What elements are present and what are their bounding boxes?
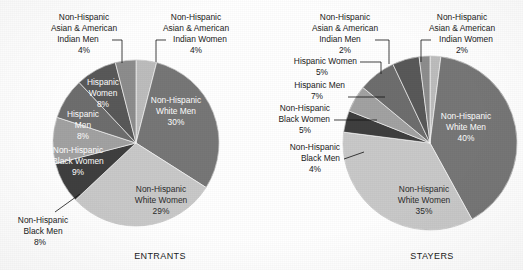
stayers-label-black-men-line1: Non-Hispanic bbox=[290, 142, 340, 152]
stayers-slice-label-white-women-line2: White Women bbox=[398, 195, 451, 205]
stayers-slice-label-white-men-line2: White Men bbox=[446, 122, 486, 132]
stayers-label-asian-women-line1: Non-Hispanic bbox=[437, 12, 487, 22]
stayers-slice-value-white-women: 35% bbox=[416, 206, 433, 216]
entrants-slice-label-white-men-line1: Non-Hispanic bbox=[151, 95, 201, 105]
stayers-slice-value-white-men: 40% bbox=[458, 133, 475, 143]
entrants-slice-value-hispanic-women: 8% bbox=[97, 99, 110, 109]
entrants-label-asian-women-value: 4% bbox=[190, 45, 203, 55]
stayers-slice-label-white-men-line1: Non-Hispanic bbox=[441, 111, 491, 121]
entrants-slice-label-hispanic-men-line1: Hispanic bbox=[67, 109, 99, 119]
entrants-slice-value-white-women: 29% bbox=[153, 206, 170, 216]
stayers-label-asian-women-value: 2% bbox=[456, 45, 469, 55]
entrants-label-black-men-value: 8% bbox=[34, 237, 47, 247]
stayers-label-black-men-line2: Black Men bbox=[301, 153, 340, 163]
entrants-slice-label-black-women-line2: Black Women bbox=[52, 156, 104, 166]
entrants-slice-label-white-women-line1: Non-Hispanic bbox=[136, 184, 186, 194]
entrants-leader-asian-men bbox=[112, 40, 122, 63]
entrants-slice-label-white-men-line2: White Men bbox=[156, 106, 196, 116]
stayers-label-hispanic-men-line1: Hispanic Men bbox=[294, 80, 345, 90]
entrants-caption: ENTRANTS bbox=[134, 251, 186, 261]
stayers-label-asian-men-line3: Indian Men bbox=[319, 34, 361, 44]
entrants-slice-label-hispanic-women-line2: Women bbox=[89, 88, 118, 98]
entrants-label-black-men-line2: Black Men bbox=[23, 226, 62, 236]
entrants-leader-black-men bbox=[55, 194, 80, 212]
stayers-label-asian-women-line2: Asian & American bbox=[429, 23, 495, 33]
two-pie-figure: Non-Hispanic White Men 30% Non-Hispanic … bbox=[0, 0, 523, 270]
entrants-label-asian-men-line2: Asian & American bbox=[51, 23, 117, 33]
stayers-label-asian-men-value: 2% bbox=[339, 45, 352, 55]
stayers-label-hispanic-women-line1: Hispanic Women bbox=[294, 56, 357, 66]
stayers-label-asian-women-line3: Indian Women bbox=[439, 34, 493, 44]
stayers-label-hispanic-women-value: 5% bbox=[316, 67, 329, 77]
stayers-label-asian-men-line2: Asian & American bbox=[312, 23, 378, 33]
entrants-slice-label-white-women-line2: White Women bbox=[135, 195, 188, 205]
stayers-label-black-men-value: 4% bbox=[309, 164, 322, 174]
stayers-label-black-women-value: 5% bbox=[299, 125, 312, 135]
entrants-leader-asian-women bbox=[156, 40, 166, 62]
entrants-label-asian-women-line1: Non-Hispanic bbox=[171, 12, 221, 22]
entrants-slice-label-hispanic-men-line2: Men bbox=[75, 120, 92, 130]
stayers-label-black-women-line2: Black Women bbox=[278, 114, 330, 124]
stayers-label-hispanic-men-value: 7% bbox=[311, 91, 324, 101]
entrants-slice-value-hispanic-men: 8% bbox=[77, 131, 90, 141]
stayers-caption: STAYERS bbox=[410, 251, 453, 261]
stayers-slice-label-white-women-line1: Non-Hispanic bbox=[399, 184, 449, 194]
entrants-slice-value-black-women: 9% bbox=[72, 167, 85, 177]
entrants-label-asian-men-line1: Non-Hispanic bbox=[59, 12, 109, 22]
stayers-label-asian-men-line1: Non-Hispanic bbox=[320, 12, 370, 22]
stayers-leader-hispanic-women bbox=[360, 62, 381, 74]
entrants-slice-label-hispanic-women-line1: Hispanic bbox=[87, 77, 119, 87]
entrants-label-asian-men-line3: Indian Men bbox=[57, 34, 99, 44]
entrants-label-black-men-line1: Non-Hispanic bbox=[18, 215, 68, 225]
figure-canvas: Non-Hispanic White Men 30% Non-Hispanic … bbox=[0, 0, 523, 270]
stayers-label-black-women-line1: Non-Hispanic bbox=[280, 103, 330, 113]
entrants-label-asian-women-line2: Asian & American bbox=[163, 23, 229, 33]
entrants-label-asian-men-value: 4% bbox=[78, 45, 91, 55]
entrants-label-asian-women-line3: Indian Women bbox=[173, 34, 227, 44]
entrants-slice-label-black-women-line1: Non-Hispanic bbox=[53, 145, 103, 155]
entrants-slice-value-white-men: 30% bbox=[168, 117, 185, 127]
stayers-leader-asian-men bbox=[375, 40, 389, 64]
